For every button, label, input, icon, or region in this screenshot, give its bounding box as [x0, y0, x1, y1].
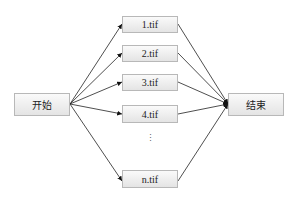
start-node: 开始: [14, 93, 70, 116]
file-node-4: 4.tif: [122, 105, 178, 123]
edge-n-end: [178, 104, 228, 181]
file-node-3: 3.tif: [122, 74, 178, 91]
file-node-n: n.tif: [122, 170, 178, 188]
ellipsis: ⋮: [146, 136, 152, 140]
edge-start-3: [70, 82, 122, 104]
edge-start-n: [70, 104, 122, 181]
end-node: 结束: [228, 93, 284, 116]
edge-start-1: [70, 24, 122, 104]
edge-start-2: [70, 53, 122, 104]
edge-4-end: [178, 104, 228, 114]
edge-2-end: [178, 53, 228, 104]
file-node-2: 2.tif: [122, 45, 178, 62]
file-node-1: 1.tif: [122, 16, 178, 33]
edge-1-end: [178, 24, 228, 104]
edge-start-4: [70, 104, 122, 114]
edge-3-end: [178, 82, 228, 104]
